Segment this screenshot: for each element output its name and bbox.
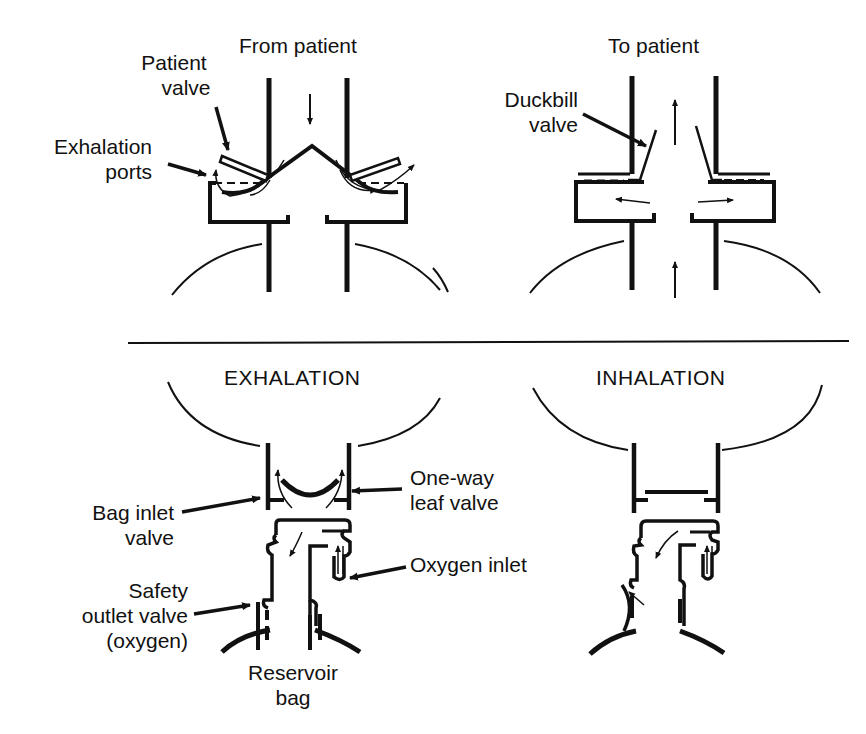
reservoir-bag-label-line1: Reservoir bbox=[228, 660, 358, 685]
duckbill-valve-label-line2: valve bbox=[470, 112, 578, 137]
duckbill-valve-label: Duckbill valve bbox=[470, 87, 578, 137]
one-way-leaf-valve-label: One-way leaf valve bbox=[410, 465, 499, 515]
to-patient-title: To patient bbox=[608, 33, 699, 58]
inhalation-title: INHALATION bbox=[596, 365, 725, 390]
one-way-leaf-valve-label-line1: One-way bbox=[410, 465, 499, 490]
inhalation-bag-valve-figure bbox=[533, 385, 822, 654]
panel-divider bbox=[128, 341, 849, 343]
bag-inlet-valve-label-line1: Bag inlet bbox=[60, 500, 174, 525]
safety-outlet-valve-label-line1: Safety bbox=[40, 578, 188, 603]
exhalation-ports-label-line1: Exhalation bbox=[30, 134, 152, 159]
patient-valve-label: Patient valve bbox=[124, 50, 224, 100]
patient-valve-label-line1: Patient bbox=[124, 50, 224, 75]
duckbill-valve-label-line1: Duckbill bbox=[470, 87, 578, 112]
exhalation-title: EXHALATION bbox=[224, 365, 360, 390]
safety-outlet-valve-label-line3: (oxygen) bbox=[40, 628, 188, 653]
one-way-leaf-valve-label-line2: leaf valve bbox=[410, 490, 499, 515]
exhalation-ports-label: Exhalation ports bbox=[30, 134, 152, 184]
oxygen-inlet-label: Oxygen inlet bbox=[410, 552, 527, 577]
exhalation-ports-label-line2: ports bbox=[30, 159, 152, 184]
patient-valve-label-line2: valve bbox=[124, 75, 224, 100]
bag-inlet-valve-label: Bag inlet valve bbox=[60, 500, 174, 550]
from-patient-title: From patient bbox=[239, 33, 357, 58]
reservoir-bag-label-line2: bag bbox=[228, 685, 358, 710]
exhalation-bag-valve-figure bbox=[168, 382, 440, 652]
bag-inlet-valve-label-line2: valve bbox=[60, 525, 174, 550]
reservoir-bag-label: Reservoir bag bbox=[228, 660, 358, 710]
diagram-canvas: From patient Patient valve Exhalation po… bbox=[0, 0, 866, 734]
exhalation-patient-valve-figure bbox=[168, 78, 440, 295]
safety-outlet-valve-label-line2: outlet valve bbox=[40, 603, 188, 628]
safety-outlet-valve-label: Safety outlet valve (oxygen) bbox=[40, 578, 188, 653]
